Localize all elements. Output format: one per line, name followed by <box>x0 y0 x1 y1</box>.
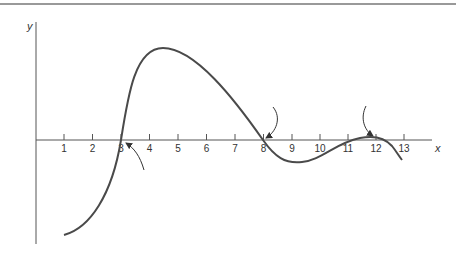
function-curve <box>64 48 402 235</box>
x-tick-labels: 1 2 3 4 5 6 7 8 9 10 11 12 13 <box>61 143 410 154</box>
tick-label: 10 <box>314 143 326 154</box>
tick-label: 11 <box>343 143 354 154</box>
arrow-annotation-x3 <box>126 143 144 170</box>
tick-label: 9 <box>289 143 295 154</box>
tick-label: 2 <box>90 143 96 154</box>
tick-label: 1 <box>61 143 67 154</box>
tick-label: 13 <box>398 143 410 154</box>
arrow-annotation-x8 <box>266 107 277 138</box>
tick-label: 12 <box>370 143 382 154</box>
x-axis-label: x <box>434 142 441 154</box>
tick-label: 5 <box>175 143 181 154</box>
arrow-annotation-x12 <box>363 106 373 136</box>
y-axis-label: y <box>26 20 34 32</box>
tick-label: 4 <box>147 143 153 154</box>
function-graph: y x 1 2 3 4 5 6 7 8 9 10 11 12 13 <box>0 0 464 254</box>
tick-label: 6 <box>204 143 210 154</box>
tick-label: 7 <box>232 143 238 154</box>
